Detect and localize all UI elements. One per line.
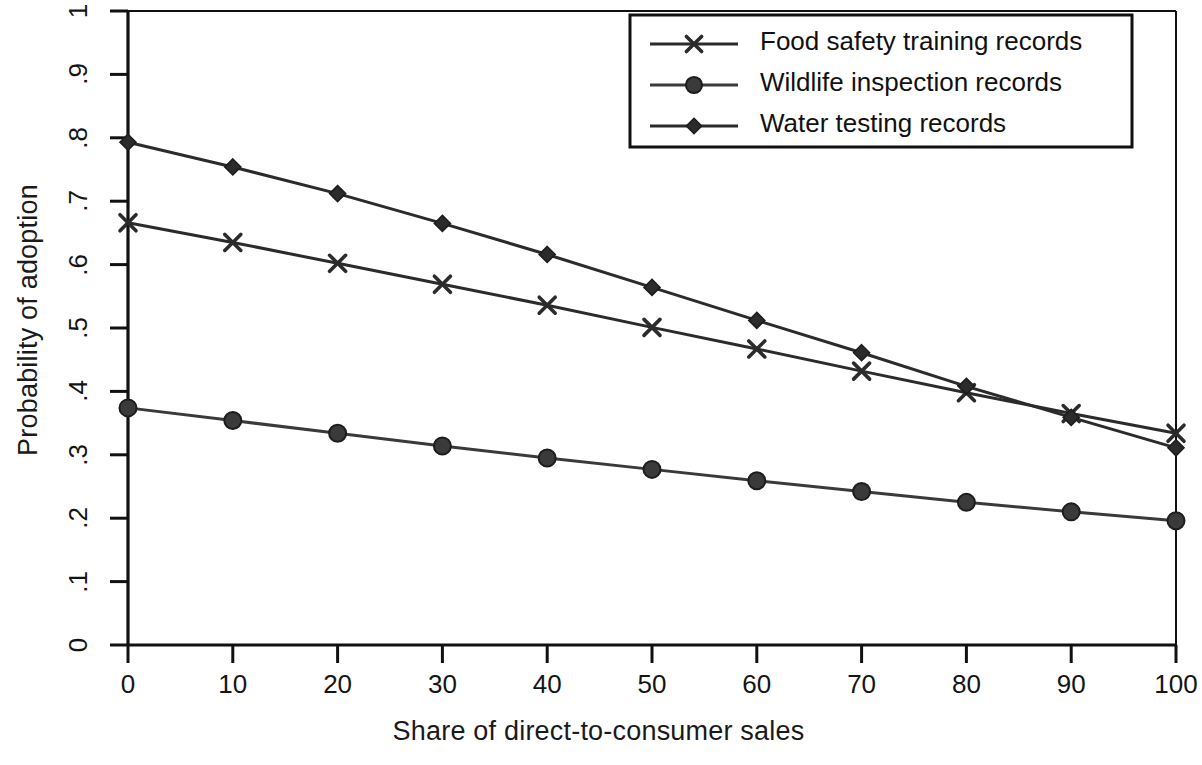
x-tick-label: 70 [812, 669, 912, 700]
data-point-marker [120, 399, 137, 416]
y-tick-label: .2 [62, 488, 94, 548]
data-point-marker [853, 483, 870, 500]
data-point-marker [330, 186, 346, 202]
legend-label: Food safety training records [760, 26, 1082, 57]
x-tick-label: 100 [1126, 669, 1202, 700]
data-point-marker [224, 412, 241, 429]
data-point-marker [749, 312, 765, 328]
data-series-group [120, 134, 1185, 529]
y-tick-label: 1 [62, 0, 94, 41]
x-tick-label: 10 [183, 669, 283, 700]
y-tick-label: .8 [62, 108, 94, 168]
x-tick-label: 0 [78, 669, 178, 700]
data-point-marker [1168, 440, 1184, 456]
data-point-marker [225, 159, 241, 175]
x-tick-label: 90 [1021, 669, 1121, 700]
data-point-marker [854, 345, 870, 361]
data-point-marker [958, 494, 975, 511]
legend-label: Wildlife inspection records [760, 67, 1062, 98]
data-point-marker [644, 461, 661, 478]
data-point-marker [644, 279, 660, 295]
legend-label: Water testing records [760, 108, 1006, 139]
x-tick-label: 60 [707, 669, 807, 700]
x-tick-label: 40 [497, 669, 597, 700]
data-point-marker [1168, 512, 1185, 529]
y-tick-label: .1 [62, 552, 94, 612]
x-tick-label: 20 [288, 669, 388, 700]
data-point-marker [539, 246, 555, 262]
data-point-marker [748, 472, 765, 489]
data-point-marker [539, 449, 556, 466]
y-tick-label: .7 [62, 171, 94, 231]
data-point-marker [1063, 503, 1080, 520]
y-tick-label: .9 [62, 44, 94, 104]
data-point-marker [686, 77, 702, 93]
x-tick-label: 50 [602, 669, 702, 700]
y-axis-title: Probability of adoption [8, 0, 48, 640]
y-tick-label: .4 [62, 361, 94, 421]
x-tick-label: 30 [392, 669, 492, 700]
y-tick-label: .6 [62, 235, 94, 295]
data-point-marker [329, 425, 346, 442]
data-point-marker [434, 437, 451, 454]
y-tick-label: 0 [62, 615, 94, 675]
y-tick-label: .3 [62, 425, 94, 485]
data-point-marker [434, 215, 450, 231]
x-axis-title: Share of direct-to-consumer sales [0, 716, 1197, 747]
x-tick-label: 80 [916, 669, 1016, 700]
y-tick-label: .5 [62, 298, 94, 358]
